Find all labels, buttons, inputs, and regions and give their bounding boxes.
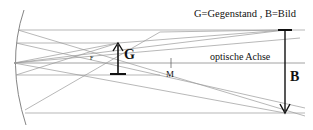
object-label: G (124, 47, 135, 62)
image-label: B (290, 69, 299, 84)
legend-text: G=Gegenstand , B=Bild (194, 8, 297, 19)
ray-lines (14, 30, 305, 116)
concave-mirror (15, 10, 26, 125)
optical-axis-label: optische Achse (210, 51, 271, 62)
concave-mirror-diagram: F M G B optische Achse G=Gegenstand , B=… (0, 0, 313, 130)
center-label: M (166, 69, 174, 79)
